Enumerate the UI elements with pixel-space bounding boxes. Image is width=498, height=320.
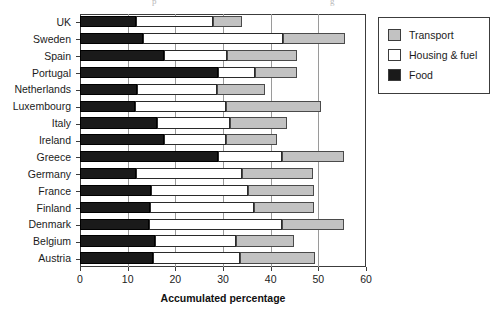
bar-segment-transport	[283, 33, 345, 44]
y-axis-tick-mark	[76, 124, 80, 125]
chart-legend: TransportHousing & fuelFood	[378, 17, 490, 94]
bar-segment-housing-fuel	[137, 84, 217, 95]
bar-segment-food	[80, 235, 155, 246]
bar-row	[80, 81, 366, 98]
x-axis-tick-label: 0	[77, 273, 83, 285]
bar-segment-food	[80, 202, 150, 213]
x-axis-tick-label: 40	[265, 273, 277, 285]
bar-segment-housing-fuel	[136, 168, 242, 179]
bar-row	[80, 14, 366, 31]
y-axis-tick-label: Germany	[28, 166, 71, 183]
y-axis-tick-label: Austria	[38, 250, 71, 267]
bar-segment-transport	[217, 84, 265, 95]
bar-segment-food	[80, 84, 137, 95]
x-axis-tick-label: 20	[169, 273, 181, 285]
y-axis-tick-mark	[76, 174, 80, 175]
bar-segment-transport	[213, 16, 242, 27]
bar-segment-housing-fuel	[157, 117, 230, 128]
y-axis-tick-mark	[76, 225, 80, 226]
bar-segment-housing-fuel	[150, 202, 254, 213]
x-axis-title: Accumulated percentage	[80, 292, 366, 304]
bar-row	[80, 216, 366, 233]
bar-segment-food	[80, 67, 218, 78]
bar-segment-housing-fuel	[135, 101, 226, 112]
bar-segment-housing-fuel	[151, 185, 248, 196]
y-axis-tick-mark	[76, 191, 80, 192]
y-axis-tick-mark	[76, 242, 80, 243]
bar-row	[80, 48, 366, 65]
bar-row	[80, 250, 366, 267]
y-axis-tick-label: Italy	[52, 115, 71, 132]
y-axis-tick-mark	[76, 73, 80, 74]
legend-item: Food	[388, 65, 481, 85]
bar-segment-transport	[242, 168, 313, 179]
y-axis-tick-label: Greece	[37, 149, 71, 166]
bar-segment-transport	[226, 101, 321, 112]
legend-item: Transport	[388, 25, 481, 45]
x-axis-tick-mark	[271, 267, 272, 271]
x-axis-tick-mark	[318, 267, 319, 271]
y-axis-tick-mark	[76, 39, 80, 40]
bar-row	[80, 149, 366, 166]
bar-segment-transport	[255, 67, 297, 78]
square-swatch-icon	[388, 29, 401, 41]
legend-item-label: Housing & fuel	[409, 49, 477, 61]
bar-segment-transport	[240, 252, 315, 263]
bar-row	[80, 98, 366, 115]
y-axis-tick-label: Ireland	[39, 132, 71, 149]
bar-segment-housing-fuel	[218, 67, 255, 78]
y-axis-tick-mark	[76, 107, 80, 108]
x-axis-tick-mark	[128, 267, 129, 271]
bar-segment-food	[80, 101, 135, 112]
bar-row	[80, 115, 366, 132]
bar-row	[80, 65, 366, 82]
y-axis-tick-mark	[76, 141, 80, 142]
bar-row	[80, 233, 366, 250]
bar-segment-transport	[227, 50, 297, 61]
square-swatch-icon	[388, 49, 401, 61]
bar-segment-transport	[230, 117, 287, 128]
x-axis-tick-label: 30	[217, 273, 229, 285]
y-axis-tick-mark	[76, 22, 80, 23]
x-axis-tick-label: 50	[312, 273, 324, 285]
bar-segment-food	[80, 50, 164, 61]
y-axis-tick-label: UK	[56, 14, 71, 31]
bar-row	[80, 183, 366, 200]
bar-segment-food	[80, 134, 164, 145]
y-axis-labels: UKSwedenSpainPortugalNetherlandsLuxembou…	[0, 14, 76, 267]
x-axis-tick-mark	[366, 267, 367, 271]
bar-segment-food	[80, 168, 136, 179]
bar-segment-housing-fuel	[218, 151, 281, 162]
y-axis-tick-mark	[76, 208, 80, 209]
bar-segment-food	[80, 219, 149, 230]
y-axis-tick-label: Spain	[44, 48, 71, 65]
bar-segment-food	[80, 117, 157, 128]
y-axis-tick-mark	[76, 157, 80, 158]
x-axis-tick-mark	[223, 267, 224, 271]
bar-segment-housing-fuel	[149, 219, 282, 230]
legend-item: Housing & fuel	[388, 45, 481, 65]
legend-item-label: Transport	[409, 29, 454, 41]
legend-item-label: Food	[409, 69, 433, 81]
bar-segment-transport	[248, 185, 314, 196]
bar-segment-transport	[254, 202, 314, 213]
stacked-bar-chart-figure: p g UKSwedenSpainPortugalNetherlandsLuxe…	[0, 0, 498, 320]
bar-row	[80, 166, 366, 183]
bar-segment-housing-fuel	[164, 50, 227, 61]
x-axis-tick-label: 60	[360, 273, 372, 285]
y-axis-tick-mark	[76, 56, 80, 57]
bar-row	[80, 132, 366, 149]
bar-segment-housing-fuel	[136, 16, 214, 27]
y-axis-tick-label: Luxembourg	[13, 98, 71, 115]
bar-row	[80, 31, 366, 48]
y-axis-tick-label: Sweden	[33, 31, 71, 48]
y-axis-tick-mark	[76, 259, 80, 260]
y-axis-tick-label: France	[38, 183, 71, 200]
y-axis-tick-label: Portugal	[32, 65, 71, 82]
bar-segment-housing-fuel	[164, 134, 226, 145]
bar-segment-food	[80, 151, 218, 162]
bar-segment-housing-fuel	[153, 252, 240, 263]
bar-rows	[80, 14, 366, 267]
bar-segment-food	[80, 252, 153, 263]
bar-row	[80, 200, 366, 217]
